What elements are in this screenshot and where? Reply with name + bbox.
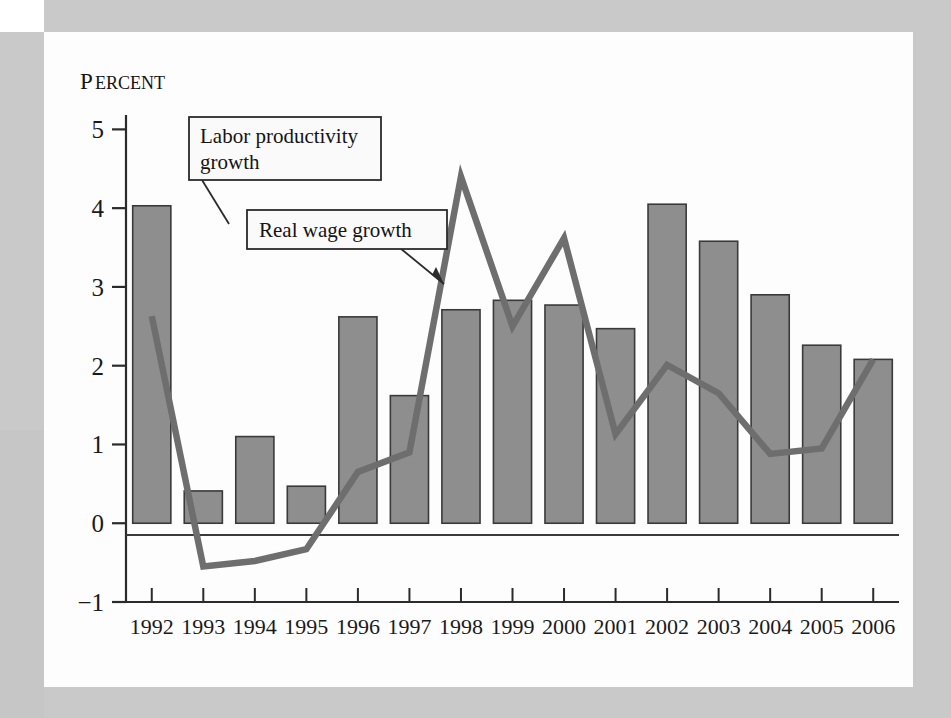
x-tick-label-1992: 1992 — [130, 614, 174, 639]
x-tick-label-1994: 1994 — [233, 614, 277, 639]
x-tick-label-1993: 1993 — [181, 614, 225, 639]
bar-1999 — [493, 300, 531, 523]
y-tick-label: 5 — [92, 116, 105, 143]
bar-2000 — [545, 305, 583, 523]
x-tick-label-2003: 2003 — [697, 614, 741, 639]
wage-callout-line1: Real wage growth — [259, 218, 412, 242]
x-tick-label-1996: 1996 — [336, 614, 380, 639]
y-tick-label: 1 — [92, 431, 105, 458]
scan-left-band — [0, 430, 44, 718]
x-tick-label-2000: 2000 — [542, 614, 586, 639]
x-tick-label-1998: 1998 — [439, 614, 483, 639]
bar-1995 — [287, 486, 325, 523]
bar-series-labor-productivity-growth — [133, 204, 893, 523]
y-tick-label: −1 — [77, 589, 104, 616]
x-tick-label-1997: 1997 — [387, 614, 431, 639]
y-tick-group: 543210−1 — [77, 116, 126, 616]
bar-1994 — [236, 437, 274, 524]
x-tick-group — [152, 588, 873, 602]
scan-corner-notch — [0, 0, 44, 32]
x-tick-label-2001: 2001 — [594, 614, 638, 639]
x-tick-label-group: 1992199319941995199619971998199920002001… — [130, 614, 895, 639]
bar-1992 — [133, 206, 171, 523]
y-tick-label: 4 — [92, 195, 105, 222]
y-tick-label: 0 — [92, 510, 105, 537]
y-axis-label-initial: P — [80, 69, 93, 94]
x-tick-label-1999: 1999 — [491, 614, 535, 639]
scan-bottom-band — [44, 687, 951, 718]
bar-1998 — [442, 310, 480, 523]
x-tick-label-2006: 2006 — [851, 614, 895, 639]
chart-container: P ERCENT 543210−1 1992199319941995199619… — [44, 32, 913, 687]
y-tick-label: 2 — [92, 353, 105, 380]
x-tick-label-2002: 2002 — [645, 614, 689, 639]
labor-callout-line2: growth — [200, 150, 260, 174]
labor-callout-line1: Labor productivity — [200, 124, 359, 148]
bar-2004 — [751, 295, 789, 523]
labor-callout-leader-line — [202, 180, 229, 224]
y-axis-label-rest: ERCENT — [95, 73, 165, 93]
x-tick-label-1995: 1995 — [284, 614, 328, 639]
x-tick-label-2005: 2005 — [800, 614, 844, 639]
bar-line-chart: P ERCENT 543210−1 1992199319941995199619… — [44, 32, 913, 687]
bar-2005 — [803, 345, 841, 523]
annotation-real-wage-growth: Real wage growth — [247, 210, 447, 284]
annotation-labor-productivity-growth: Labor productivity growth — [189, 117, 381, 224]
y-tick-label: 3 — [92, 274, 105, 301]
x-tick-label-2004: 2004 — [748, 614, 792, 639]
